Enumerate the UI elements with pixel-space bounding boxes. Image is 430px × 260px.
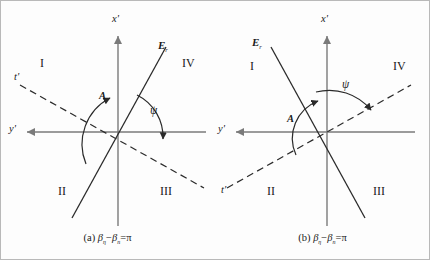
axis-label-t-prime: t' [14,72,19,83]
axis-label-y-prime: y' [218,124,225,135]
angle-label-A: A [99,91,106,102]
panel-b: x' y' t' Er I II III IV A ψ (b) βη−βn=π [215,0,430,260]
field-label-E-r: Er [158,40,168,54]
axis-label-t-prime: t' [221,185,226,196]
field-label-subscript: r [165,46,168,53]
angle-arc-psi [316,90,371,110]
quadrant-label-IV: IV [393,60,406,72]
quadrant-label-IV: IV [182,57,195,69]
caption-value: π [341,232,346,243]
quadrant-label-II: II [58,185,66,197]
caption-value: π [126,232,131,243]
field-label-E-r: Er [252,37,262,51]
angle-arc-A [82,98,110,164]
field-label-subscript: r [259,43,262,50]
dashed-axis-t-prime [227,85,411,188]
panel-a-diagram [0,0,215,260]
axis-label-y-prime: y' [9,124,16,135]
quadrant-label-II: II [267,185,275,197]
quadrant-label-III: III [373,185,385,197]
caption-prefix: (b) [298,232,310,243]
axis-label-x-prime: x' [112,14,119,25]
quadrant-label-I: I [40,57,44,69]
angle-arc-A [292,101,318,155]
panel-a: x' y' t' Er I II III IV A ψ (a) βη−βn=π [0,0,215,260]
dashed-axis-t-prime [20,85,204,188]
panel-a-caption: (a) βη−βn=π [0,233,215,245]
caption-prefix: (a) [84,232,96,243]
figure-container: x' y' t' Er I II III IV A ψ (a) βη−βn=π [0,0,430,260]
angle-label-psi: ψ [342,79,349,91]
quadrant-label-III: III [160,185,172,197]
quadrant-label-I: I [250,60,254,72]
angle-label-psi: ψ [150,105,157,117]
panel-b-diagram [215,0,430,260]
axis-label-x-prime: x' [321,14,328,25]
panel-b-caption: (b) βη−βn=π [215,233,430,245]
angle-label-A: A [287,114,294,125]
